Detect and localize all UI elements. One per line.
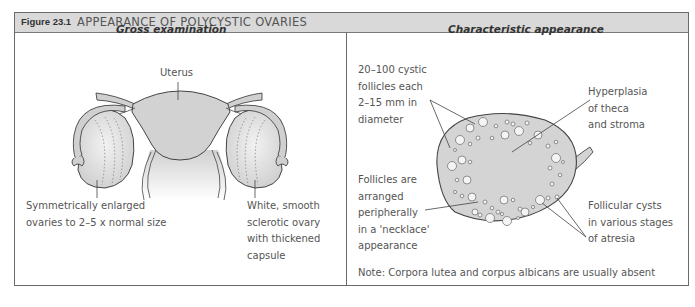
- note: Note: Corpora lutea and corpus albicans …: [358, 265, 655, 282]
- illustration-canvas: [0, 0, 695, 307]
- label-uterus: Uterus: [160, 65, 193, 82]
- left-ovary: [72, 105, 134, 188]
- label-enlarged-ovaries: Symmetrically enlarged ovaries to 2–5 x …: [26, 198, 166, 231]
- label-sclerotic-ovary: White, smooth sclerotic ovary with thick…: [247, 198, 320, 264]
- label-hyperplasia: Hyperplasia of theca and stroma: [588, 84, 647, 134]
- label-necklace: Follicles are arranged peripherally in a…: [358, 172, 429, 255]
- label-cystic-follicles: 20–100 cystic follicles each 2–15 mm in …: [358, 62, 427, 128]
- ovary-cross-section: [437, 113, 593, 225]
- label-atresia: Follicular cysts in various stages of at…: [588, 198, 673, 248]
- right-ovary: [226, 105, 288, 188]
